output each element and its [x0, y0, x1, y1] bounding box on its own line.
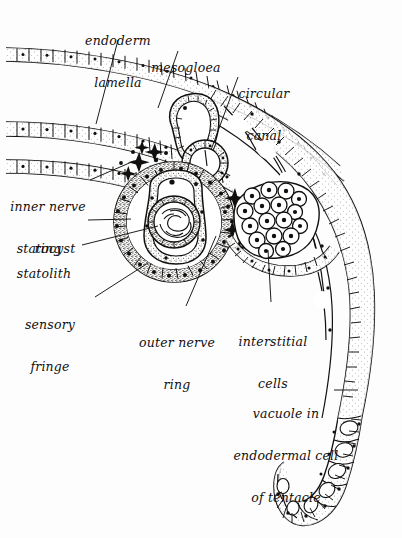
label-outer-nerve-ring-line-1: outer nerve — [127, 336, 227, 350]
label-outer-nerve-ring-line-2: ring — [127, 378, 227, 392]
statocyst-capsule — [114, 162, 234, 282]
label-interstitial-cells-line-1: interstitial — [225, 335, 321, 349]
label-outer-nerve-ring: outer nerve ring — [127, 308, 227, 406]
label-circular-canal: circular canal — [216, 59, 312, 157]
label-sensory-fringe-line-2: fringe — [2, 360, 98, 374]
label-vacuole-line-1: vacuole in — [216, 407, 356, 421]
label-circular-canal-line-1: circular — [216, 87, 312, 101]
label-sensory-fringe-line-1: sensory — [2, 318, 98, 332]
leader-sensory-fringe — [95, 263, 148, 297]
label-inner-nerve-ring-line-1: inner nerve — [0, 200, 96, 214]
label-statolith-line-1: statolith — [0, 267, 88, 281]
statolith-mass — [148, 196, 200, 248]
label-vacuole-line-3: of tentacle — [216, 491, 356, 505]
label-vacuole-line-2: endodermal cell — [216, 449, 356, 463]
label-circular-canal-line-2: canal — [216, 129, 312, 143]
label-sensory-fringe: sensory fringe — [2, 290, 98, 388]
label-statolith: statolith — [0, 239, 88, 295]
label-vacuole-in-endodermal-cell-of-tentacle: vacuole in endodermal cell of tentacle — [216, 379, 356, 519]
